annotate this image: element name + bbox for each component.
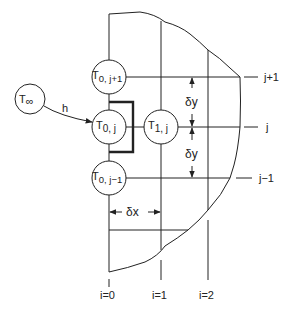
dy-label-upper: δy (185, 95, 198, 109)
finite-difference-diagram: δy δy δx h T∞ T0, j+1 T0, j T1, j T0, j−… (0, 0, 291, 311)
row-label-j: j (265, 121, 268, 133)
col-label-i0: i=0 (100, 289, 115, 301)
row-label-jm1: j−1 (258, 172, 274, 184)
solid-boundary (109, 12, 241, 272)
node-t0-j: T0, j (92, 110, 126, 144)
col-label-i2: i=2 (199, 289, 214, 301)
dy-label-lower: δy (185, 147, 198, 161)
convection-label-h: h (62, 102, 68, 114)
node-t0-jm1: T0, j−1 (92, 161, 126, 195)
svg-text:T∞: T∞ (19, 93, 34, 107)
row-label-jp1: j+1 (263, 71, 279, 83)
col-label-i1: i=1 (152, 289, 167, 301)
node-t0-jp1: T0, j+1 (92, 60, 126, 94)
node-t1-j: T1, j (144, 110, 178, 144)
dx-label: δx (126, 205, 139, 219)
ambient-node-t-inf: T∞ (15, 84, 45, 114)
